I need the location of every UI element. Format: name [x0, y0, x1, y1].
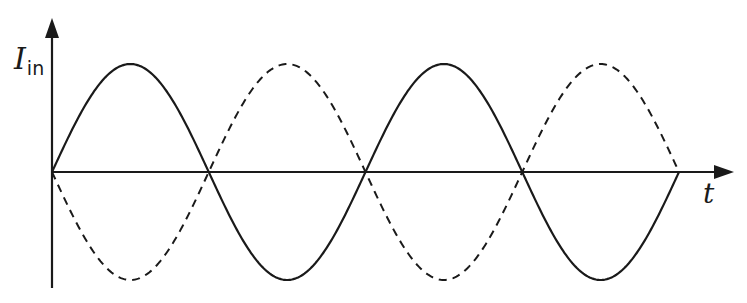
- y-axis-arrow-icon: [45, 18, 59, 38]
- y-axis-label-main: I: [14, 41, 26, 76]
- waveform-diagram: [0, 0, 747, 303]
- x-axis-label: t: [703, 180, 714, 208]
- y-axis-label: Iin: [14, 44, 44, 78]
- x-axis-arrow-icon: [714, 165, 734, 179]
- y-axis-label-subscript: in: [27, 57, 44, 79]
